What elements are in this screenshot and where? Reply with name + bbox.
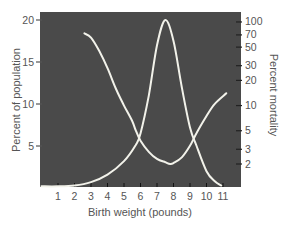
right-y-tick-label: 70 (245, 28, 257, 40)
right-y-axis-title: Percent mortality (268, 54, 280, 137)
x-tick-label: 1 (55, 190, 61, 202)
x-tick-label: 6 (138, 190, 144, 202)
x-tick-label: 4 (105, 190, 111, 202)
right-y-tick-label: 20 (245, 74, 257, 86)
x-tick-label: 2 (72, 190, 78, 202)
right-y-tick-label: 30 (245, 59, 257, 71)
x-axis-title: Birth weight (pounds) (88, 206, 192, 218)
x-tick-label: 7 (154, 190, 160, 202)
left-y-tick-label: 5 (28, 140, 34, 152)
x-tick-label: 11 (218, 190, 229, 202)
right-y-tick-label: 3 (245, 143, 251, 155)
left-y-axis: 5101520 (22, 14, 42, 152)
x-tick-label: 10 (201, 190, 213, 202)
left-y-tick-label: 20 (22, 14, 34, 26)
x-tick-label: 5 (121, 190, 127, 202)
x-tick-label: 9 (187, 190, 193, 202)
left-y-axis-title: Percent of population (10, 48, 22, 152)
right-y-tick-label: 10 (245, 99, 257, 111)
x-tick-label: 3 (88, 190, 94, 202)
left-y-tick-label: 15 (22, 56, 34, 68)
plot-area (40, 12, 241, 187)
right-y-tick-label: 5 (245, 124, 251, 136)
right-y-tick-label: 2 (245, 158, 251, 170)
left-y-tick-label: 10 (22, 98, 34, 110)
x-tick-label: 8 (171, 190, 177, 202)
right-y-tick-label: 50 (245, 41, 257, 53)
right-y-tick-label: 100 (245, 15, 263, 27)
birth-weight-chart: 1234567891011 5101520 2351020305070100 B… (0, 0, 284, 227)
